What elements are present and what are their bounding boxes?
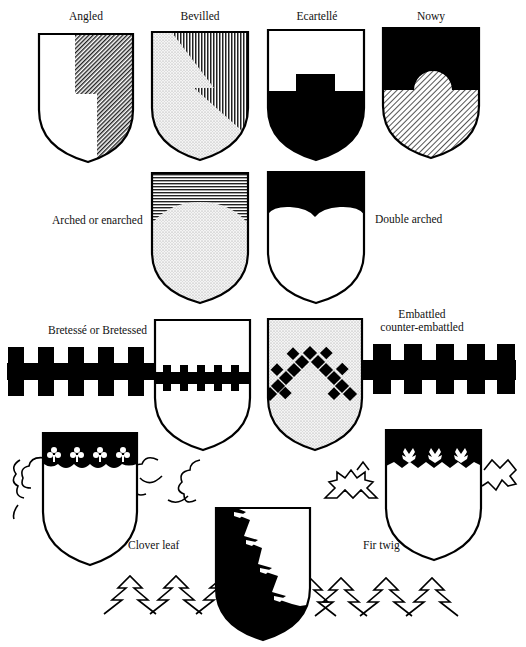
label-clover-leaf: Clover leaf: [128, 539, 179, 552]
label-fir-twig: Fir twig: [363, 539, 400, 552]
bretesse-band: [7, 347, 157, 396]
shield-angled: [39, 34, 134, 164]
shield-bretesse: [153, 318, 253, 452]
shield-bevilled: [150, 30, 250, 162]
label-embattled: Embattled: [372, 308, 472, 321]
label-counter-embattled: counter-embattled: [372, 321, 472, 334]
label-double-arched: Double arched: [375, 213, 442, 226]
label-bevilled: Bevilled: [170, 10, 230, 23]
shield-fir-twig-bend: [214, 506, 314, 642]
label-nowy: Nowy: [406, 10, 456, 23]
label-arched: Arched or enarched: [52, 214, 143, 227]
shield-embattled-counter-embattled: [263, 317, 366, 452]
label-bretesse: Bretessé or Bretessed: [48, 324, 147, 337]
embattled-band: [363, 344, 516, 394]
shield-double-arched: [266, 170, 366, 304]
shield-arched: [150, 171, 250, 305]
shield-nowy: [381, 26, 481, 160]
shield-ecartelle: [266, 28, 366, 162]
label-angled: Angled: [56, 10, 116, 23]
label-ecartelle: Ecartellé: [280, 10, 354, 23]
shield-clover-leaf: [41, 431, 141, 567]
